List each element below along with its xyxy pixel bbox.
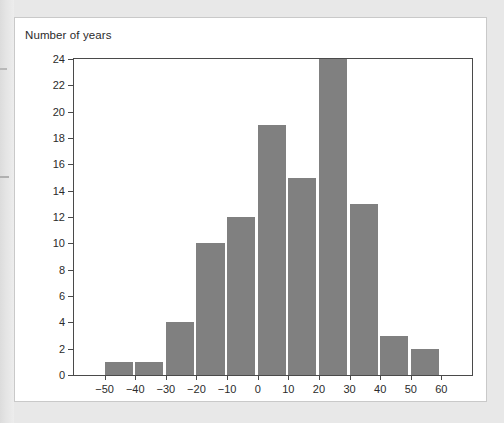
- y-axis-tick: [68, 296, 74, 297]
- y-axis-tick: [68, 138, 74, 139]
- x-axis-tick: [258, 375, 259, 380]
- bar: [380, 336, 408, 376]
- plot-area: [74, 59, 472, 375]
- scan-speck-lower: [0, 176, 9, 178]
- y-axis-tick-label: 10: [53, 237, 65, 249]
- x-axis-tick-label: 10: [282, 383, 294, 395]
- bar: [227, 217, 255, 375]
- x-axis-tick: [411, 375, 412, 380]
- y-axis-tick-label: 2: [59, 343, 65, 355]
- y-axis-tick: [68, 85, 74, 86]
- y-axis-tick-label: 6: [59, 290, 65, 302]
- bar: [196, 243, 224, 375]
- x-axis-tick-label: 40: [374, 383, 386, 395]
- y-axis-tick-label: 18: [53, 132, 65, 144]
- y-axis-tick: [68, 191, 74, 192]
- y-axis-tick: [68, 375, 74, 376]
- y-axis-tick: [68, 322, 74, 323]
- bar: [350, 204, 378, 375]
- page-title: Number of years: [25, 29, 112, 41]
- x-axis-tick: [135, 375, 136, 380]
- x-axis-tick-label: −40: [126, 383, 145, 395]
- y-axis-tick: [68, 112, 74, 113]
- plot-frame: 024681012141618202224−50−40−30−20−100102…: [73, 58, 473, 376]
- y-axis-tick: [68, 270, 74, 271]
- x-axis-tick: [105, 375, 106, 380]
- x-axis-tick-label: −10: [218, 383, 237, 395]
- y-axis-tick: [68, 243, 74, 244]
- y-axis-tick: [68, 349, 74, 350]
- x-axis-tick: [288, 375, 289, 380]
- y-axis-tick-label: 16: [53, 158, 65, 170]
- bar: [288, 178, 316, 376]
- x-axis-tick-label: 30: [343, 383, 355, 395]
- y-axis-tick: [68, 217, 74, 218]
- y-axis-tick-label: 0: [59, 369, 65, 381]
- y-axis-tick-label: 4: [59, 316, 65, 328]
- figure-panel: Number of years 024681012141618202224−50…: [14, 17, 487, 402]
- y-axis-tick-label: 22: [53, 79, 65, 91]
- bar: [411, 349, 439, 375]
- x-axis-tick-label: −50: [95, 383, 114, 395]
- bar: [135, 362, 163, 375]
- y-axis-tick: [68, 59, 74, 60]
- bar: [166, 322, 194, 375]
- y-axis-tick-label: 12: [53, 211, 65, 223]
- x-axis-tick-label: 60: [435, 383, 447, 395]
- y-axis-tick-label: 20: [53, 106, 65, 118]
- y-axis-tick-label: 24: [53, 53, 65, 65]
- x-axis-tick: [350, 375, 351, 380]
- bar: [258, 125, 286, 375]
- x-axis-tick: [227, 375, 228, 380]
- x-axis-tick: [196, 375, 197, 380]
- x-axis-tick: [166, 375, 167, 380]
- x-axis-tick-label: −20: [187, 383, 206, 395]
- y-axis-tick-label: 14: [53, 185, 65, 197]
- scan-speck-upper: [0, 68, 7, 70]
- x-axis-tick-label: 0: [255, 383, 261, 395]
- x-axis-tick: [441, 375, 442, 380]
- bar: [105, 362, 133, 375]
- x-axis-tick-label: 50: [405, 383, 417, 395]
- x-axis-tick: [319, 375, 320, 380]
- scan-edge-artifact: [0, 0, 14, 423]
- y-axis-tick: [68, 164, 74, 165]
- y-axis-tick-label: 8: [59, 264, 65, 276]
- bar: [319, 59, 347, 375]
- x-axis-tick: [380, 375, 381, 380]
- x-axis-tick-label: −30: [157, 383, 176, 395]
- x-axis-tick-label: 20: [313, 383, 325, 395]
